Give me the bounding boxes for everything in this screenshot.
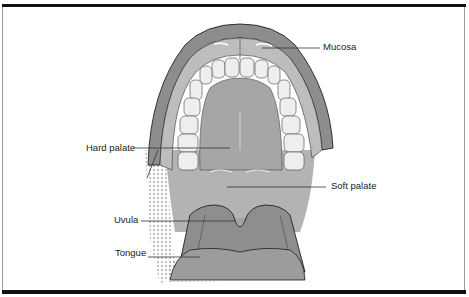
label-soft-palate: Soft palate — [331, 181, 376, 191]
label-hard-palate: Hard palate — [86, 143, 135, 153]
label-mucosa: Mucosa — [323, 42, 356, 52]
mouth-illustration — [0, 0, 469, 297]
tongue-shape — [170, 248, 305, 280]
label-tongue: Tongue — [115, 248, 146, 258]
label-uvula: Uvula — [114, 215, 138, 225]
hard-palate-region — [200, 78, 282, 170]
